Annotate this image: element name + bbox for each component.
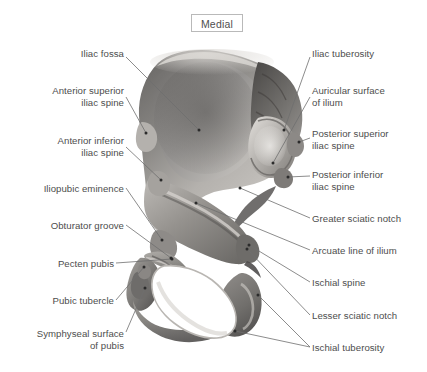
label-posterior-inferior-iliac-spine: Posterior inferior iliac spine [312, 169, 426, 192]
anatomy-figure-root: Medial Iliac fossaAnterior superior ilia… [0, 0, 427, 372]
leader-symphyseal-surface-dot [144, 287, 147, 290]
label-ischial-tuberosity: Ischial tuberosity [312, 342, 426, 354]
leader-auricular-surface-dot [272, 162, 275, 165]
label-symphyseal-surface-of-pubis: Symphyseal surface of pubis [4, 328, 124, 351]
label-iliac-tuberosity: Iliac tuberosity [312, 48, 424, 60]
label-pecten-pubis: Pecten pubis [14, 258, 114, 270]
iliac-fossa-shadow [154, 62, 258, 174]
leader-arcuate-line-of-ilium-dot [195, 202, 198, 205]
label-iliopubic-eminence: Iliopubic eminence [6, 183, 124, 195]
leader-pubic-tubercle-dot [143, 266, 146, 269]
label-auricular-surface-of-ilium: Auricular surface of ilium [312, 85, 424, 108]
posterior-inferior-iliac-spine [274, 168, 293, 188]
leader-anterior-superior-iliac-spine-dot [145, 132, 148, 135]
label-ischial-spine: Ischial spine [312, 277, 426, 289]
leader-iliac-tuberosity-dot [283, 129, 286, 132]
label-obturator-groove: Obturator groove [6, 220, 124, 232]
leader-pecten-pubis-dot [171, 258, 174, 261]
leader-ischial-spine-dot [248, 244, 251, 247]
label-arcuate-line-of-ilium: Arcuate line of ilium [312, 245, 426, 257]
leader-greater-sciatic-notch-dot [239, 187, 242, 190]
obturator-foramen [152, 266, 236, 338]
bone-photograph [126, 49, 310, 350]
label-anterior-superior-iliac-spine: Anterior superior iliac spine [14, 85, 124, 108]
leader-iliac-fossa-dot [198, 129, 201, 132]
label-lesser-sciatic-notch: Lesser sciatic notch [312, 310, 426, 322]
label-greater-sciatic-notch: Greater sciatic notch [312, 213, 426, 225]
leader-anterior-inferior-iliac-spine-dot [160, 179, 163, 182]
leader-posterior-superior-iliac-spine-dot [298, 141, 301, 144]
leader-posterior-inferior-iliac-spine-dot [287, 176, 290, 179]
leader-lesser-sciatic-notch-dot [246, 248, 249, 251]
label-iliac-fossa: Iliac fossa [14, 48, 124, 60]
label-posterior-superior-iliac-spine: Posterior superior iliac spine [312, 128, 426, 151]
leader-ischial-tuberosity-a [258, 295, 310, 347]
leader-ischial-tuberosity-b [235, 331, 310, 347]
posterior-superior-iliac-spine [287, 132, 304, 157]
leader-iliopubic-eminence-dot [161, 239, 164, 242]
label-pubic-tubercle: Pubic tubercle [10, 295, 114, 307]
leader-ischial-spine [249, 245, 310, 282]
label-anterior-inferior-iliac-spine: Anterior inferior iliac spine [14, 135, 124, 158]
leader-ischial-tuberosity-a-dot [257, 294, 260, 297]
orientation-badge-medial: Medial [191, 14, 243, 32]
auricular-surface-highlight [254, 126, 286, 166]
leader-ischial-tuberosity-b-dot [234, 330, 237, 333]
